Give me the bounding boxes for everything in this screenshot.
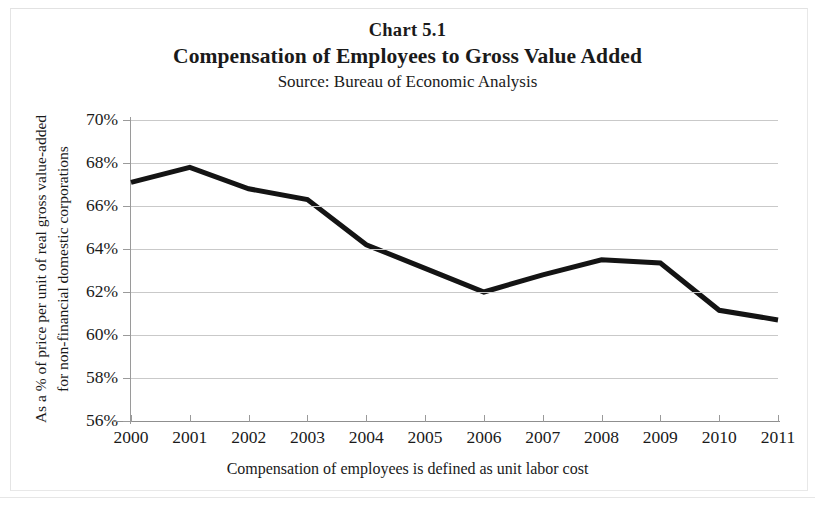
y-axis-tick-label: 58% <box>0 369 118 387</box>
y-axis-tick-label: 60% <box>0 326 118 344</box>
plot-area <box>131 120 778 421</box>
y-axis-tick <box>123 206 131 207</box>
x-axis-tick <box>190 415 191 422</box>
x-axis-tick <box>484 415 485 422</box>
chart-title: Compensation of Employees to Gross Value… <box>0 44 815 69</box>
x-axis-tick <box>543 415 544 422</box>
x-axis-line <box>113 421 780 422</box>
x-axis-tick <box>425 415 426 422</box>
gridline <box>131 292 778 293</box>
scan-bottom-edge <box>0 497 815 498</box>
x-axis-footnote: Compensation of employees is defined as … <box>0 460 815 478</box>
x-axis-tick <box>131 415 132 422</box>
y-axis-tick <box>123 335 131 336</box>
y-axis-tick <box>123 378 131 379</box>
x-axis-tick <box>366 415 367 422</box>
y-axis-tick-label: 70% <box>0 111 118 129</box>
y-axis-tick-label: 66% <box>0 197 118 215</box>
y-axis-tick <box>123 249 131 250</box>
gridline <box>131 206 778 207</box>
y-axis-tick-label: 68% <box>0 154 118 172</box>
x-axis-tick <box>719 415 720 422</box>
gridline <box>131 378 778 379</box>
x-axis-tick <box>602 415 603 422</box>
gridline <box>131 335 778 336</box>
gridline <box>131 249 778 250</box>
data-line-series <box>131 120 778 421</box>
x-axis-tick-label: 2011 <box>743 427 813 448</box>
y-axis-tick <box>123 120 131 121</box>
x-axis-tick <box>249 415 250 422</box>
x-axis-tick <box>307 415 308 422</box>
chart-number-label: Chart 5.1 <box>0 20 815 41</box>
x-axis-tick <box>660 415 661 422</box>
y-axis-tick <box>123 421 131 422</box>
x-axis-tick <box>778 415 779 422</box>
y-axis-tick-label: 64% <box>0 240 118 258</box>
y-axis-tick <box>123 163 131 164</box>
y-axis-tick <box>123 292 131 293</box>
y-axis-tick-label: 62% <box>0 283 118 301</box>
gridline <box>131 163 778 164</box>
chart-source-label: Source: Bureau of Economic Analysis <box>0 72 815 92</box>
gridline <box>131 120 778 121</box>
